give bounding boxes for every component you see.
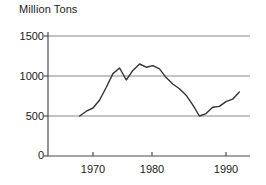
gridlines bbox=[48, 36, 250, 116]
plot-area bbox=[0, 0, 266, 185]
data-series-line bbox=[80, 64, 240, 116]
line-chart: Million Tons 1500 1000 500 0 1970 1980 1… bbox=[0, 0, 266, 185]
